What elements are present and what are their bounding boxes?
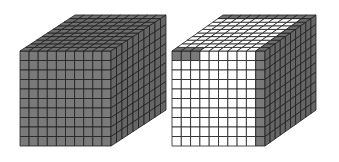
front-cell [56, 51, 65, 61]
front-cell [38, 61, 47, 71]
front-cell [181, 89, 190, 99]
front-cell [84, 108, 93, 118]
front-cell [38, 99, 47, 109]
front-cell [200, 118, 209, 128]
front-cell [38, 137, 47, 147]
front-cell [246, 127, 255, 137]
front-cell [191, 137, 200, 147]
front-cell [256, 80, 265, 90]
front-cell [20, 108, 29, 118]
front-cell [84, 80, 93, 90]
front-cell [66, 61, 75, 71]
front-cell [29, 80, 38, 90]
front-cell [29, 51, 38, 61]
front-cell [228, 108, 237, 118]
front-cell [200, 137, 209, 147]
front-cell [219, 127, 228, 137]
front-cell [75, 51, 84, 61]
front-cell [47, 61, 56, 71]
front-cell [93, 99, 102, 109]
front-cell [47, 70, 56, 80]
front-cell [219, 51, 228, 61]
front-cell [228, 61, 237, 71]
front-cell [66, 80, 75, 90]
front-cell [209, 51, 218, 61]
front-cell [47, 51, 56, 61]
front-cell [38, 118, 47, 128]
front-cell [66, 127, 75, 137]
front-cell [84, 137, 93, 147]
front-cell [181, 99, 190, 109]
front-cell [237, 108, 246, 118]
front-cell [20, 127, 29, 137]
front-cell [84, 70, 93, 80]
front-cell [93, 118, 102, 128]
front-cell [181, 51, 190, 61]
front-cell [75, 127, 84, 137]
front-cell [84, 99, 93, 109]
partial-cube [172, 15, 316, 146]
front-cell [209, 89, 218, 99]
front-cell [237, 99, 246, 109]
front-cell [256, 70, 265, 80]
front-cell [29, 118, 38, 128]
front-cell [29, 108, 38, 118]
front-cell [56, 61, 65, 71]
front-cell [84, 127, 93, 137]
front-cell [246, 61, 255, 71]
front-cell [38, 89, 47, 99]
front-cell [209, 61, 218, 71]
front-cell [181, 118, 190, 128]
front-cell [209, 80, 218, 90]
front-cell [20, 118, 29, 128]
front-cell [246, 70, 255, 80]
front-cell [200, 108, 209, 118]
front-cell [191, 70, 200, 80]
front-cell [75, 70, 84, 80]
front-cell [209, 127, 218, 137]
front-cell [47, 108, 56, 118]
front-cell [228, 118, 237, 128]
front-cell [84, 51, 93, 61]
front-cell [228, 80, 237, 90]
front-cell [237, 127, 246, 137]
front-cell [200, 61, 209, 71]
front-cell [84, 89, 93, 99]
front-cell [256, 137, 265, 147]
front-cell [38, 108, 47, 118]
front-cell [191, 89, 200, 99]
front-cell [181, 70, 190, 80]
front-cell [209, 108, 218, 118]
front-cell [102, 137, 111, 147]
front-cell [56, 118, 65, 128]
front-cell [172, 80, 181, 90]
front-cell [93, 61, 102, 71]
front-cell [29, 89, 38, 99]
front-cell [20, 61, 29, 71]
front-cell [228, 51, 237, 61]
front-cell [246, 108, 255, 118]
front-cell [66, 99, 75, 109]
front-cell [191, 118, 200, 128]
front-cell [47, 99, 56, 109]
front-cell [47, 137, 56, 147]
front-cell [228, 89, 237, 99]
front-cell [20, 70, 29, 80]
front-cell [200, 89, 209, 99]
front-cell [56, 99, 65, 109]
front-cell [29, 61, 38, 71]
front-cell [228, 70, 237, 80]
front-cell [29, 70, 38, 80]
front-cell [237, 61, 246, 71]
front-cell [66, 51, 75, 61]
front-cell [246, 80, 255, 90]
front-cell [191, 61, 200, 71]
front-cell [75, 89, 84, 99]
front-cell [172, 70, 181, 80]
front-cell [237, 118, 246, 128]
front-cell [219, 99, 228, 109]
front-cell [29, 99, 38, 109]
front-cell [66, 137, 75, 147]
front-cell [75, 137, 84, 147]
front-cell [20, 80, 29, 90]
